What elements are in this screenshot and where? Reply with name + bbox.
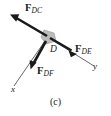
- joint-label-d: D: [50, 45, 57, 55]
- free-body-diagram-figure: FDC FDE FDF D x y (c): [0, 0, 111, 116]
- force-label-fde: FDE: [75, 44, 92, 55]
- force-subscript-fde: DE: [81, 47, 91, 56]
- force-subscript-fdc: DC: [31, 6, 42, 15]
- force-label-fdc: FDC: [25, 3, 42, 14]
- gusset-plate: [41, 30, 56, 44]
- x-axis-label: x: [11, 85, 15, 94]
- force-label-fdf: FDF: [37, 66, 54, 77]
- figure-caption: (c): [50, 97, 61, 107]
- y-axis-label: y: [93, 62, 97, 71]
- force-vector-fdc: [10, 14, 47, 36]
- force-subscript-fdf: DF: [43, 69, 53, 78]
